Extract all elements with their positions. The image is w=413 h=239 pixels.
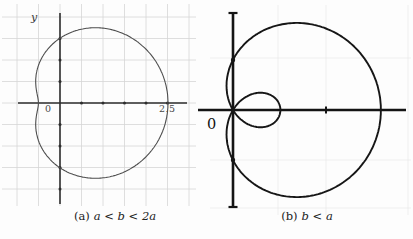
caption-a-math: a < b < 2a (94, 209, 156, 223)
caption-a-prefix: (a) (74, 209, 90, 223)
caption-b: (b)b < a (227, 209, 387, 223)
x-tick-label-a: 2.5 (159, 104, 176, 114)
caption-b-math: b < a (302, 209, 333, 223)
origin-label-a: 0 (45, 104, 51, 114)
polar-curves-figure: y 0 2.5 0 (a)a < b < 2a (b)b < a (0, 0, 413, 239)
y-axis-label: y (31, 12, 37, 23)
origin-label-b: 0 (207, 117, 216, 132)
caption-b-prefix: (b) (281, 209, 297, 223)
caption-a: (a)a < b < 2a (35, 209, 195, 223)
